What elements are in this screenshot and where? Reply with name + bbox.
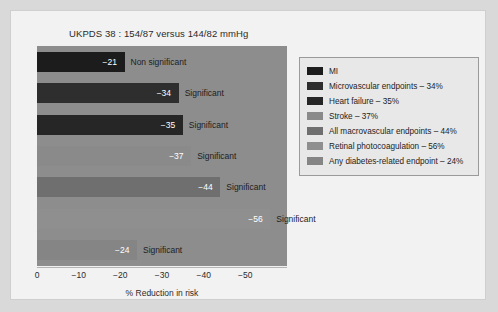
bar-row: −37Significant [37, 146, 287, 166]
bar-significance-label: Significant [143, 245, 182, 255]
bar-row: −24Significant [37, 240, 287, 260]
x-axis-tick-label: −20 [113, 270, 127, 280]
bar-significance-label: Significant [185, 88, 224, 98]
x-axis-tick-label: −30 [155, 270, 169, 280]
bar-row: −35Significant [37, 115, 287, 135]
bar[interactable] [37, 209, 270, 229]
legend-swatch-icon [307, 157, 323, 165]
legend-swatch-icon [307, 142, 323, 150]
chart-title: UKPDS 38 : 154/87 versus 144/82 mmHg [69, 28, 248, 39]
legend-swatch-icon [307, 97, 323, 105]
x-axis-tick-label: −10 [71, 270, 85, 280]
legend-swatch-icon [307, 112, 323, 120]
legend-item[interactable]: Microvascular endpoints – 34% [307, 79, 472, 93]
legend-item-label: Retinal photocoagulation – 56% [329, 142, 445, 151]
chart-card: UKPDS 38 : 154/87 versus 144/82 mmHg −21… [10, 10, 486, 300]
bar-value-label: −56 [248, 214, 262, 224]
chart-legend: MIMicrovascular endpoints – 34%Heart fai… [299, 57, 479, 176]
x-axis-title: % Reduction in risk [37, 288, 287, 298]
legend-item-label: MI [329, 67, 338, 76]
x-axis-line [37, 267, 287, 268]
legend-item-label: Any diabetes-related endpoint – 24% [329, 157, 463, 166]
bar-value-label: −44 [198, 182, 212, 192]
legend-item-label: Stroke – 37% [329, 112, 378, 121]
bar-value-label: −24 [115, 245, 129, 255]
legend-swatch-icon [307, 67, 323, 75]
bar[interactable] [37, 146, 191, 166]
bar-significance-label: Significant [197, 151, 236, 161]
bar-row: −44Significant [37, 177, 287, 197]
legend-item[interactable]: Retinal photocoagulation – 56% [307, 139, 472, 153]
plot-area: −21Non significant−34Significant−35Signi… [37, 46, 287, 266]
legend-item[interactable]: MI [307, 64, 472, 78]
bar-value-label: −34 [157, 88, 171, 98]
legend-item[interactable]: Any diabetes-related endpoint – 24% [307, 154, 472, 168]
legend-item-label: All macrovascular endpoints – 44% [329, 127, 457, 136]
bar-significance-label: Non significant [131, 57, 187, 67]
bar-row: −21Non significant [37, 52, 287, 72]
x-axis-tick-label: 0 [35, 270, 40, 280]
legend-swatch-icon [307, 82, 323, 90]
bar-significance-label: Significant [189, 120, 228, 130]
x-axis-tick-label: −40 [196, 270, 210, 280]
bar-significance-label: Significant [276, 214, 315, 224]
bar[interactable] [37, 177, 220, 197]
bar-value-label: −37 [169, 151, 183, 161]
bar-value-label: −21 [103, 57, 117, 67]
bar-value-label: −35 [161, 120, 175, 130]
x-axis-tick-label: −50 [238, 270, 252, 280]
bar-significance-label: Significant [226, 182, 265, 192]
bar-row: −56Significant [37, 209, 287, 229]
legend-item-label: Microvascular endpoints – 34% [329, 82, 443, 91]
legend-item-label: Heart failure – 35% [329, 97, 399, 106]
legend-item[interactable]: All macrovascular endpoints – 44% [307, 124, 472, 138]
legend-item[interactable]: Stroke – 37% [307, 109, 472, 123]
bar-row: −34Significant [37, 83, 287, 103]
legend-item[interactable]: Heart failure – 35% [307, 94, 472, 108]
legend-swatch-icon [307, 127, 323, 135]
